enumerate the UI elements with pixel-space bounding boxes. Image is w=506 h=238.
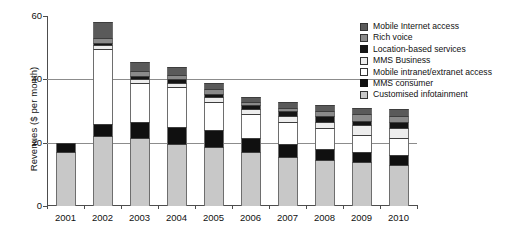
segment-2003-mobile-internet-access — [130, 62, 150, 72]
bar-2010[interactable] — [389, 109, 409, 206]
segment-2004-mobile-intranet-extranet-access — [167, 87, 187, 127]
bar-2006[interactable] — [241, 97, 261, 206]
segment-2003-mms-consumer — [130, 122, 150, 138]
segment-2010-mobile-intranet-extranet-access — [389, 138, 409, 155]
segment-2001-mms-consumer — [56, 143, 76, 153]
x-tick-label-2007: 2007 — [269, 212, 306, 223]
y-tick-label-20: 20 — [31, 138, 42, 148]
segment-2008-customised-infotainment — [315, 160, 335, 206]
segment-2008-mms-consumer — [315, 149, 335, 160]
segment-2007-mobile-intranet-extranet-access — [278, 122, 298, 144]
segment-2007-customised-infotainment — [278, 157, 298, 206]
bar-2004[interactable] — [167, 67, 187, 206]
legend-swatch-icon — [360, 79, 368, 87]
segment-2009-mms-business — [352, 125, 372, 135]
segment-2007-mms-consumer — [278, 144, 298, 157]
segment-2001-customised-infotainment — [56, 152, 76, 206]
segment-2002-mobile-internet-access — [93, 22, 113, 38]
x-tick-label-2010: 2010 — [380, 212, 417, 223]
legend-label: Location-based services — [373, 45, 466, 54]
y-axis-title: Revenues ($ per month) — [28, 34, 39, 204]
x-tick-mark-end — [417, 205, 418, 209]
bar-2001[interactable] — [56, 143, 76, 206]
x-tick-mark-9 — [380, 205, 381, 209]
x-tick-label-2001: 2001 — [47, 212, 84, 223]
legend-label: MMS Business — [373, 56, 430, 65]
x-tick-label-2005: 2005 — [195, 212, 232, 223]
segment-2005-mms-consumer — [204, 130, 224, 147]
legend-item-mobile-intranet-extranet-access[interactable]: Mobile intranet/extranet access — [360, 68, 492, 77]
x-tick-mark-3 — [158, 205, 159, 209]
x-tick-mark-2 — [121, 205, 122, 209]
legend-label: Mobile intranet/extranet access — [373, 68, 492, 77]
legend-label: MMS consumer — [373, 79, 433, 88]
x-tick-label-2003: 2003 — [121, 212, 158, 223]
segment-2009-mms-consumer — [352, 152, 372, 162]
legend-item-location-based-services[interactable]: Location-based services — [360, 45, 492, 54]
segment-2004-mobile-internet-access — [167, 67, 187, 75]
segment-2005-mobile-intranet-extranet-access — [204, 102, 224, 131]
x-tick-mark-8 — [343, 205, 344, 209]
x-tick-label-2009: 2009 — [343, 212, 380, 223]
segment-2002-customised-infotainment — [93, 136, 113, 206]
x-tick-mark-4 — [195, 205, 196, 209]
segment-2006-mobile-intranet-extranet-access — [241, 114, 261, 138]
segment-2002-mms-consumer — [93, 124, 113, 137]
bar-2007[interactable] — [278, 102, 298, 206]
y-tick-label-0: 0 — [37, 201, 42, 211]
x-tick-mark-1 — [84, 205, 85, 209]
x-tick-label-2006: 2006 — [232, 212, 269, 223]
bar-2002[interactable] — [93, 22, 113, 206]
legend-swatch-icon — [360, 57, 368, 65]
segment-2009-mobile-intranet-extranet-access — [352, 135, 372, 152]
legend-swatch-icon — [360, 91, 368, 99]
legend-swatch-icon — [360, 45, 368, 53]
segment-2008-mobile-intranet-extranet-access — [315, 128, 335, 149]
chart-legend: Mobile Internet accessRich voiceLocation… — [360, 22, 492, 99]
segment-2010-mms-business — [389, 128, 409, 138]
bar-2005[interactable] — [204, 83, 224, 206]
legend-swatch-icon — [360, 23, 368, 31]
segment-2003-customised-infotainment — [130, 138, 150, 206]
legend-swatch-icon — [360, 34, 368, 42]
segment-2003-mobile-intranet-extranet-access — [130, 83, 150, 123]
x-tick-mark-5 — [232, 205, 233, 209]
segment-2006-customised-infotainment — [241, 152, 261, 206]
legend-item-mms-business[interactable]: MMS Business — [360, 56, 492, 65]
segment-2004-mms-consumer — [167, 127, 187, 144]
legend-label: Mobile Internet access — [373, 22, 459, 31]
legend-item-customised-infotainment[interactable]: Customised infotainment — [360, 90, 492, 99]
legend-label: Customised infotainment — [373, 90, 468, 99]
legend-item-rich-voice[interactable]: Rich voice — [360, 33, 492, 42]
y-tick-label-40: 40 — [31, 75, 42, 85]
y-tick-label-60: 60 — [31, 11, 42, 21]
stacked-bar-chart: Revenues ($ per month) 0204060 200120022… — [0, 0, 506, 238]
segment-2004-customised-infotainment — [167, 144, 187, 206]
bar-2009[interactable] — [352, 108, 372, 206]
segment-2002-mobile-intranet-extranet-access — [93, 49, 113, 123]
x-tick-mark-7 — [306, 205, 307, 209]
segment-2010-customised-infotainment — [389, 165, 409, 206]
segment-2010-mms-consumer — [389, 155, 409, 165]
segment-2005-customised-infotainment — [204, 147, 224, 206]
legend-item-mobile-internet-access[interactable]: Mobile Internet access — [360, 22, 492, 31]
segment-2009-customised-infotainment — [352, 162, 372, 206]
segment-2006-mms-consumer — [241, 138, 261, 152]
x-tick-label-2002: 2002 — [84, 212, 121, 223]
x-tick-label-2004: 2004 — [158, 212, 195, 223]
x-tick-mark-0 — [47, 205, 48, 209]
x-tick-mark-6 — [269, 205, 270, 209]
x-tick-label-2008: 2008 — [306, 212, 343, 223]
bar-2008[interactable] — [315, 105, 335, 206]
legend-item-mms-consumer[interactable]: MMS consumer — [360, 79, 492, 88]
legend-label: Rich voice — [373, 33, 413, 42]
bar-2003[interactable] — [130, 62, 150, 206]
legend-swatch-icon — [360, 68, 368, 76]
